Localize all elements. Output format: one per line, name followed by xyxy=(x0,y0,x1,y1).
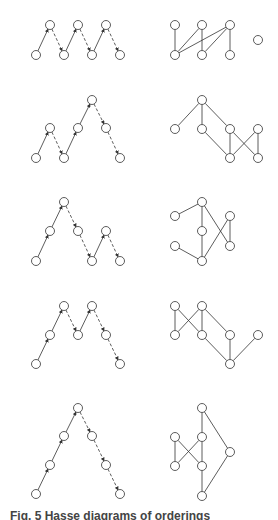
edges-layer xyxy=(38,27,258,492)
dashed-arrow-edge xyxy=(80,235,90,257)
chain-node xyxy=(46,461,55,470)
dashed-arrow-edge xyxy=(52,29,62,51)
solid-arrow-edge xyxy=(66,132,76,154)
poset-node xyxy=(171,462,180,471)
chain-node xyxy=(60,154,69,163)
dashed-arrow-edge xyxy=(66,206,76,227)
chain-node xyxy=(32,154,41,163)
hasse-edge xyxy=(178,103,199,125)
poset-node xyxy=(254,36,263,45)
chain-node xyxy=(88,432,97,441)
solid-arrow-edge xyxy=(52,310,62,331)
poset-node xyxy=(198,462,207,471)
chain-node xyxy=(102,124,111,133)
poset-node xyxy=(198,125,207,134)
hasse-edge xyxy=(205,103,227,126)
poset-node xyxy=(198,96,207,105)
hasse-edge xyxy=(205,309,227,332)
chain-node xyxy=(46,124,55,133)
chain-node xyxy=(102,331,111,340)
hasse-edge xyxy=(204,220,227,257)
chain-node xyxy=(102,227,111,236)
poset-node xyxy=(198,51,207,60)
chain-node xyxy=(32,490,41,499)
dashed-arrow-edge xyxy=(52,132,62,154)
poset-node xyxy=(198,331,207,340)
hasse-edge xyxy=(179,204,198,214)
hasse-edge xyxy=(204,206,227,242)
poset-node xyxy=(226,154,235,163)
hasse-edge xyxy=(179,248,198,259)
poset-node xyxy=(171,51,180,60)
poset-node xyxy=(226,448,235,457)
hasse-edge xyxy=(205,338,227,361)
chain-node xyxy=(116,490,125,499)
chain-node xyxy=(88,257,97,266)
chain-node xyxy=(116,51,125,60)
poset-node xyxy=(226,331,235,340)
poset-node xyxy=(198,257,207,266)
poset-node xyxy=(226,242,235,251)
chain-node xyxy=(74,21,83,30)
solid-arrow-edge xyxy=(38,339,48,360)
hasse-edge xyxy=(178,28,199,51)
chain-node xyxy=(88,302,97,311)
poset-node xyxy=(198,404,207,413)
poset-node xyxy=(171,212,180,221)
poset-node xyxy=(171,21,180,30)
dashed-arrow-edge xyxy=(108,469,118,490)
dashed-arrow-edge xyxy=(108,235,118,257)
poset-node xyxy=(171,242,180,251)
solid-arrow-edge xyxy=(94,29,104,51)
solid-arrow-edge xyxy=(38,469,48,490)
solid-arrow-edge xyxy=(52,440,62,461)
chain-node xyxy=(102,21,111,30)
chain-node xyxy=(116,154,125,163)
chain-node xyxy=(46,227,55,236)
chain-node xyxy=(88,96,97,105)
solid-arrow-edge xyxy=(94,235,104,257)
hasse-edge xyxy=(179,27,226,53)
solid-arrow-edge xyxy=(66,29,76,51)
dashed-arrow-edge xyxy=(108,132,118,154)
solid-arrow-edge xyxy=(80,104,90,124)
dashed-arrow-edge xyxy=(94,440,104,461)
chain-node xyxy=(60,302,69,311)
hasse-diagram-figure xyxy=(0,0,278,520)
dashed-arrow-edge xyxy=(66,310,76,331)
dashed-arrow-edge xyxy=(80,29,90,51)
chain-node xyxy=(88,51,97,60)
figure-caption: Fig. 5 Hasse diagrams of orderings xyxy=(10,509,210,520)
nodes-layer xyxy=(32,21,263,501)
poset-node xyxy=(171,302,180,311)
chain-node xyxy=(32,360,41,369)
chain-node xyxy=(60,51,69,60)
hasse-edge xyxy=(204,456,227,492)
chain-node xyxy=(116,257,125,266)
dashed-arrow-edge xyxy=(108,339,118,360)
dashed-arrow-edge xyxy=(94,104,104,124)
solid-arrow-edge xyxy=(52,206,62,227)
chain-node xyxy=(46,21,55,30)
poset-node xyxy=(198,21,207,30)
chain-node xyxy=(74,124,83,133)
chain-node xyxy=(32,257,41,266)
poset-node xyxy=(198,492,207,501)
dashed-arrow-edge xyxy=(108,29,118,51)
poset-node xyxy=(226,21,235,30)
hasse-edge xyxy=(204,412,227,448)
hasse-edge xyxy=(233,338,255,361)
chain-node xyxy=(32,51,41,60)
solid-arrow-edge xyxy=(38,235,48,257)
solid-arrow-edge xyxy=(38,132,48,154)
poset-node xyxy=(254,154,263,163)
poset-node xyxy=(171,433,180,442)
chain-node xyxy=(74,331,83,340)
hasse-edge xyxy=(205,28,227,51)
poset-node xyxy=(254,331,263,340)
poset-node xyxy=(226,360,235,369)
poset-node xyxy=(198,198,207,207)
chain-node xyxy=(60,432,69,441)
solid-arrow-edge xyxy=(38,29,48,51)
poset-node xyxy=(198,433,207,442)
